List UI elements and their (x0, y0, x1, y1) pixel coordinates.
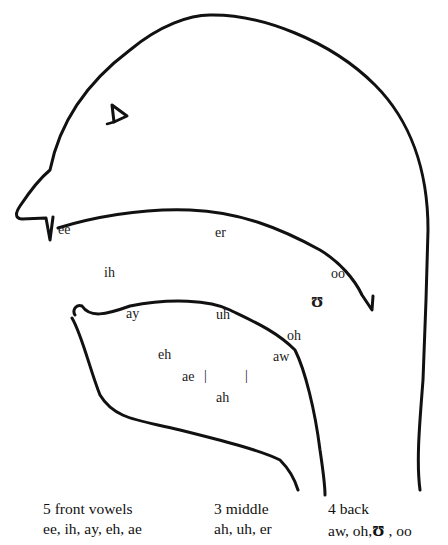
legend-back-list-a: aw, oh, (328, 522, 372, 539)
legend-front-list: ee, ih, ay, eh, ae (43, 519, 142, 539)
legend-back: 4 back aw, oh,ʊ , oo (328, 499, 412, 541)
head-outline (17, 15, 429, 490)
legend-back-list: aw, oh,ʊ , oo (328, 519, 412, 541)
vowel-label-ee: ee (58, 223, 70, 237)
eye-tail (107, 122, 114, 124)
tick-mark-left: | (204, 369, 207, 383)
legend-middle-heading: 3 middle (214, 499, 272, 519)
vowel-label-eh: eh (158, 348, 171, 362)
vowel-label-ae: ae (182, 370, 194, 384)
legend-middle: 3 middle ah, uh, er (214, 499, 272, 539)
vowel-label-ah: ah (216, 391, 229, 405)
vowel-label-ay: ay (126, 307, 139, 321)
vowel-label-ih: ih (104, 266, 115, 280)
tick-mark-right: | (245, 369, 248, 383)
eye-outline (112, 105, 127, 122)
vowel-label-oo: oo (331, 267, 345, 281)
legend-back-heading: 4 back (328, 499, 412, 519)
legend-front-heading: 5 front vowels (43, 499, 142, 519)
legend-front: 5 front vowels ee, ih, ay, eh, ae (43, 499, 142, 539)
vowel-label-oh: oh (287, 329, 301, 343)
vocal-tract-outline (0, 0, 448, 545)
legend-back-upsilon: ʊ (372, 518, 384, 540)
vowel-label-upsilon: ʊ (311, 291, 323, 309)
vowel-label-aw: aw (273, 350, 289, 364)
legend-back-list-b: , oo (385, 522, 412, 539)
vowel-label-er: er (215, 226, 226, 240)
vowel-label-uh: uh (216, 308, 230, 322)
jaw-outline (72, 318, 298, 490)
legend-middle-list: ah, uh, er (214, 519, 272, 539)
